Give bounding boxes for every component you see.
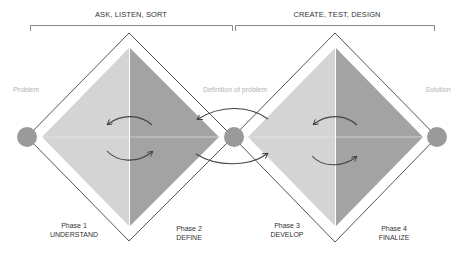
bracket-right (236, 26, 435, 32)
problem-node-circle (17, 127, 37, 147)
arrow-icon (198, 108, 268, 119)
phase-4-name: FINALIZE (369, 233, 419, 242)
definition-of-problem-label: Definition of problem (195, 86, 275, 93)
solution-label: Solution (418, 86, 458, 93)
phase-3-label: Phase 3 DEVELOP (262, 221, 312, 239)
definition-node-circle (224, 127, 244, 147)
phase-2-name: DEFINE (164, 233, 214, 242)
phase-3-number: Phase 3 (262, 221, 312, 230)
phase-4-number: Phase 4 (369, 224, 419, 233)
arrow-icon (196, 154, 267, 164)
phase-4-label: Phase 4 FINALIZE (369, 224, 419, 242)
solution-node-circle (427, 127, 447, 147)
problem-label: Problem (6, 86, 46, 93)
phase-2-label: Phase 2 DEFINE (164, 224, 214, 242)
phase-3-name: DEVELOP (262, 230, 312, 239)
phase-1-number: Phase 1 (48, 221, 100, 230)
phase-1-name: UNDERSTAND (48, 230, 100, 239)
bracket-title-right: CREATE, TEST, DESIGN (282, 10, 392, 19)
phase-1-label: Phase 1 UNDERSTAND (48, 221, 100, 239)
bracket-left (31, 26, 233, 32)
phase-2-number: Phase 2 (164, 224, 214, 233)
bracket-title-left: ASK, LISTEN, SORT (80, 10, 182, 19)
